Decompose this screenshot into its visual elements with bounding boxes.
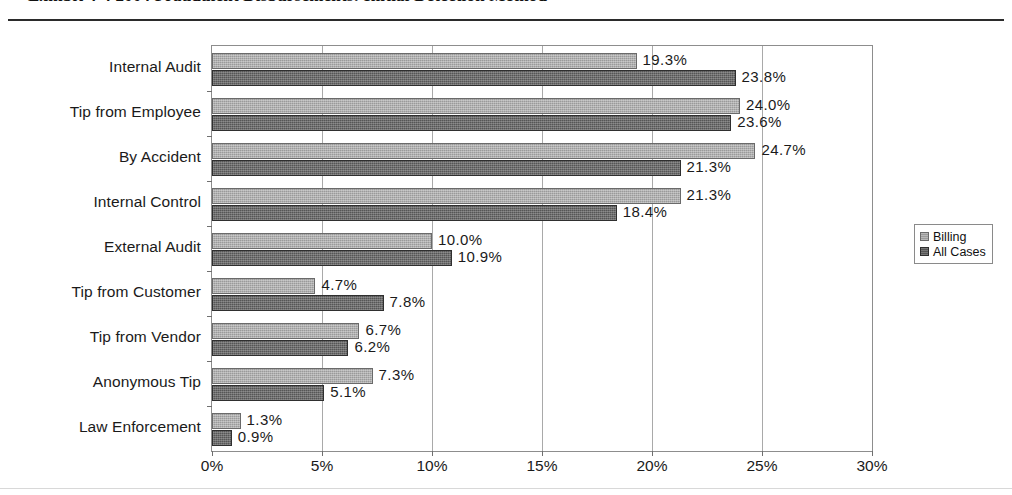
- bar-value-label: 5.1%: [330, 383, 366, 400]
- bar-value-label: 23.6%: [737, 113, 782, 130]
- bar-value-label: 6.7%: [365, 321, 401, 338]
- x-axis-tick-labels: 0%5%10%15%20%25%30%: [211, 457, 873, 483]
- y-axis-tick: [207, 181, 212, 182]
- x-axis-tick: [762, 451, 763, 456]
- bar: [212, 98, 740, 114]
- legend-item: All Cases: [920, 244, 986, 259]
- bar: [212, 143, 755, 159]
- x-axis-tick-label: 5%: [311, 457, 333, 475]
- bar-value-label: 10.9%: [458, 248, 503, 265]
- bar: [212, 115, 731, 131]
- chart-legend: BillingAll Cases: [914, 224, 993, 264]
- bar: [212, 188, 681, 204]
- x-axis-tick-label: 0%: [201, 457, 223, 475]
- x-axis-tick: [542, 451, 543, 456]
- y-axis-category-label: Tip from Vendor: [1, 328, 201, 346]
- y-axis-category-label: Law Enforcement: [1, 418, 201, 436]
- x-axis-tick: [432, 451, 433, 456]
- legend-item-label: All Cases: [933, 245, 986, 259]
- x-axis-tick: [872, 451, 873, 456]
- bar-group: 24.7%21.3%: [212, 143, 872, 177]
- legend-item-label: Billing: [933, 230, 966, 244]
- page-bottom-rule: [0, 488, 1012, 489]
- bar-value-label: 1.3%: [247, 411, 283, 428]
- bar: [212, 385, 324, 401]
- y-axis-tick: [207, 316, 212, 317]
- y-axis-category-label: External Audit: [1, 238, 201, 256]
- bar-group: 24.0%23.6%: [212, 98, 872, 132]
- y-axis-tick: [207, 406, 212, 407]
- bar-value-label: 7.8%: [390, 293, 426, 310]
- y-axis-tick: [207, 271, 212, 272]
- bar-group: 4.7%7.8%: [212, 278, 872, 312]
- bar-value-label: 7.3%: [379, 366, 415, 383]
- bar-value-label: 23.8%: [742, 68, 787, 85]
- bar: [212, 295, 384, 311]
- bar-value-label: 19.3%: [643, 51, 688, 68]
- bar: [212, 413, 241, 429]
- x-axis-tick-label: 30%: [856, 457, 887, 475]
- x-axis-tick: [322, 451, 323, 456]
- bar: [212, 160, 681, 176]
- bar-chart: Internal AuditTip from EmployeeBy Accide…: [0, 0, 1012, 495]
- bar-value-label: 6.2%: [354, 338, 390, 355]
- bar-value-label: 21.3%: [687, 186, 732, 203]
- y-axis-category-label: Internal Audit: [1, 58, 201, 76]
- y-axis-category-label: Tip from Employee: [1, 103, 201, 121]
- y-axis-tick: [207, 136, 212, 137]
- x-axis-tick-label: 25%: [746, 457, 777, 475]
- bar-value-label: 10.0%: [438, 231, 483, 248]
- y-axis-category-label: Anonymous Tip: [1, 373, 201, 391]
- x-axis-tick-label: 15%: [526, 457, 557, 475]
- legend-swatch-billing: [920, 232, 929, 241]
- y-axis-category-label: Tip from Customer: [1, 283, 201, 301]
- bar-value-label: 4.7%: [321, 276, 357, 293]
- bar-value-label: 0.9%: [238, 428, 274, 445]
- bar-group: 21.3%18.4%: [212, 188, 872, 222]
- bar: [212, 53, 637, 69]
- bar: [212, 340, 348, 356]
- bar: [212, 70, 736, 86]
- legend-swatch-all-cases: [920, 247, 929, 256]
- bar-group: 10.0%10.9%: [212, 233, 872, 267]
- bar-value-label: 18.4%: [623, 203, 668, 220]
- bar: [212, 205, 617, 221]
- x-axis-tick-label: 10%: [416, 457, 447, 475]
- bar: [212, 368, 373, 384]
- x-axis-tick: [652, 451, 653, 456]
- bar: [212, 250, 452, 266]
- bar-group: 19.3%23.8%: [212, 53, 872, 87]
- y-axis-tick: [207, 361, 212, 362]
- bar-value-label: 24.0%: [746, 96, 791, 113]
- x-axis-tick-label: 20%: [636, 457, 667, 475]
- bar-group: 6.7%6.2%: [212, 323, 872, 357]
- legend-item: Billing: [920, 229, 986, 244]
- y-axis-tick: [207, 226, 212, 227]
- bar: [212, 430, 232, 446]
- y-axis-category-label: Internal Control: [1, 193, 201, 211]
- bar-group: 7.3%5.1%: [212, 368, 872, 402]
- bar: [212, 233, 432, 249]
- bar-value-label: 21.3%: [687, 158, 732, 175]
- bar: [212, 323, 359, 339]
- bar: [212, 278, 315, 294]
- bar-group: 1.3%0.9%: [212, 413, 872, 447]
- y-axis-category-label: By Accident: [1, 148, 201, 166]
- y-axis-category-labels: Internal AuditTip from EmployeeBy Accide…: [0, 45, 201, 452]
- y-axis-tick: [207, 91, 212, 92]
- bar-value-label: 24.7%: [761, 141, 806, 158]
- x-axis-tick: [212, 451, 213, 456]
- plot-area: 19.3%23.8%24.0%23.6%24.7%21.3%21.3%18.4%…: [211, 45, 873, 452]
